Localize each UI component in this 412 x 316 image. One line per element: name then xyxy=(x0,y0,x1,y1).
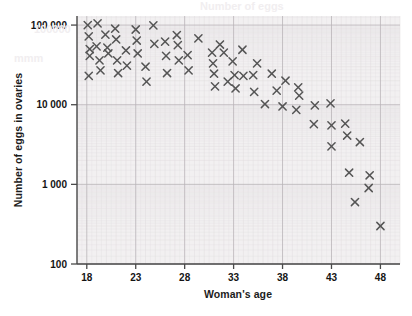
x-tick-label: 33 xyxy=(228,272,240,283)
x-tick-label: 48 xyxy=(375,272,387,283)
x-tick-label: 43 xyxy=(326,272,338,283)
y-axis-label: Number of eggs in ovaries xyxy=(12,73,24,207)
y-tick-label: 1 000 xyxy=(42,179,67,190)
x-tick-label: 28 xyxy=(179,272,191,283)
y-tick-label: 100 xyxy=(50,259,67,270)
background-artifact-ylabel: 100000 xyxy=(34,23,71,35)
chart-canvas: 18232833384348 1001 00010 000100 000 Wom… xyxy=(0,0,412,316)
y-tick-label: 10 000 xyxy=(36,99,67,110)
background-artifact-smudge: mmm xyxy=(14,52,43,64)
background-artifact-title: Number of eggs xyxy=(200,0,284,12)
x-tick-label: 18 xyxy=(81,272,93,283)
x-axis-label: Woman's age xyxy=(204,288,272,300)
x-tick-label: 23 xyxy=(130,272,142,283)
scatter-chart: Number of eggs 100000 mmm 18232833384348… xyxy=(0,0,412,316)
x-tick-label: 38 xyxy=(277,272,289,283)
